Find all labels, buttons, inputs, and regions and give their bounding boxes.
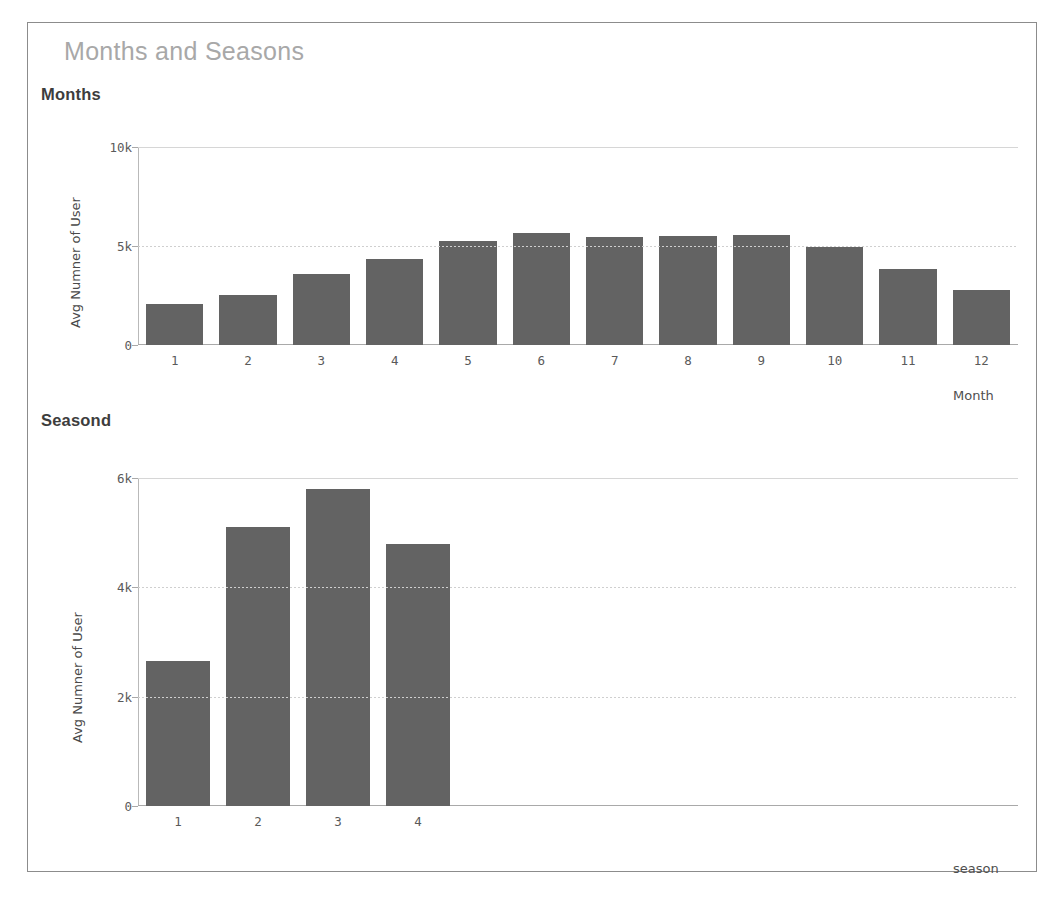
seasons-y-tick-mark [132, 806, 138, 807]
seasons-y-tick-label: 4k [117, 580, 132, 595]
seasons-gridline [138, 478, 1018, 479]
months-x-tick-label: 11 [900, 353, 915, 368]
seasons-y-tick-mark [132, 587, 138, 588]
seasons-y-tick-label: 2k [117, 689, 132, 704]
seasons-bar [386, 544, 450, 806]
months-x-tick-label: 6 [538, 353, 546, 368]
months-y-tick-mark [132, 147, 138, 148]
months-x-tick-label: 2 [244, 353, 252, 368]
months-x-tick-label: 7 [611, 353, 619, 368]
months-bar [806, 247, 863, 345]
seasons-y-axis-label: Avg Numner of User [70, 612, 85, 743]
months-y-tick-label: 0 [124, 338, 132, 353]
months-bar [513, 233, 570, 345]
seasons-bar [226, 527, 290, 806]
months-bar [439, 241, 496, 345]
months-section-title: Months [41, 85, 101, 104]
months-bar [586, 237, 643, 345]
seasons-bar-group [138, 478, 1018, 806]
seasons-gridline [138, 697, 1018, 698]
months-x-tick-label: 8 [684, 353, 692, 368]
months-bar [366, 259, 423, 345]
seasons-x-tick-label: 2 [254, 814, 262, 829]
months-y-tick-mark [132, 246, 138, 247]
seasons-x-tick-label: 3 [334, 814, 342, 829]
seasons-bar [146, 661, 210, 806]
months-x-tick-label: 12 [974, 353, 989, 368]
months-x-axis-caption: Month [953, 388, 994, 403]
page-title: Months and Seasons [64, 37, 304, 66]
seasons-gridline [138, 587, 1018, 588]
months-y-axis-label: Avg Numner of User [68, 197, 83, 328]
months-y-tick-label: 10k [109, 140, 132, 155]
seasons-y-tick-mark [132, 697, 138, 698]
months-x-tick-label: 9 [758, 353, 766, 368]
page-root: Months and Seasons Months Avg Numner of … [0, 0, 1059, 899]
seasons-bar [306, 489, 370, 806]
months-plot-area: 05k10k [138, 147, 1018, 345]
months-gridline [138, 147, 1018, 148]
months-bar-chart: Avg Numner of User 05k10k 12345678910111… [28, 113, 1036, 413]
months-bar [219, 295, 276, 345]
seasons-bar-chart: Avg Numner of User 02k4k6k 1234 [28, 443, 1036, 871]
seasons-y-tick-mark [132, 478, 138, 479]
months-bar [733, 235, 790, 345]
months-y-tick-label: 5k [117, 239, 132, 254]
months-x-tick-label: 3 [318, 353, 326, 368]
months-y-tick-mark [132, 345, 138, 346]
months-x-tick-label: 1 [171, 353, 179, 368]
months-bar [146, 304, 203, 345]
seasons-x-axis-caption: season [953, 861, 999, 876]
months-bar [293, 274, 350, 345]
months-gridline [138, 246, 1018, 247]
seasons-y-tick-label: 0 [124, 799, 132, 814]
seasons-y-tick-label: 6k [117, 471, 132, 486]
months-bar [879, 269, 936, 345]
months-bar [953, 290, 1010, 345]
months-x-tick-label: 5 [464, 353, 472, 368]
dashboard-card: Months and Seasons Months Avg Numner of … [27, 22, 1037, 872]
seasons-x-tick-label: 1 [174, 814, 182, 829]
months-x-tick-label: 10 [827, 353, 842, 368]
seasons-section-title: Seasond [41, 411, 111, 430]
seasons-x-tick-label: 4 [414, 814, 422, 829]
months-bar [659, 236, 716, 345]
months-x-tick-label: 4 [391, 353, 399, 368]
seasons-plot-area: 02k4k6k [138, 478, 1018, 806]
